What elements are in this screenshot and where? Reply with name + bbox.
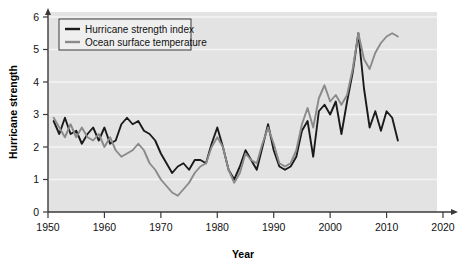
y-tick-label: 5 (33, 43, 39, 55)
line-chart: 0123456 19501960197019801990200020102020… (0, 0, 470, 269)
legend-label-ocean-surface-temperature: Ocean surface temperature (85, 37, 207, 48)
x-axis-title: Year (232, 248, 254, 260)
y-tick-label: 3 (33, 108, 39, 120)
y-tick-label: 4 (33, 76, 39, 88)
legend: Hurricane strength index Ocean surface t… (59, 19, 207, 50)
y-tick-label: 1 (33, 173, 39, 185)
x-tick-label: 2000 (318, 221, 342, 233)
chart-figure: 0123456 19501960197019801990200020102020… (0, 0, 470, 269)
y-tick-label: 0 (33, 206, 39, 218)
x-tick-label: 2010 (375, 221, 399, 233)
x-axis-ticks: 19501960197019801990200020102020 (36, 212, 455, 233)
legend-label-hurricane-strength-index: Hurricane strength index (85, 24, 194, 35)
y-axis-title: Hurricane strength (7, 65, 19, 159)
y-axis-ticks: 0123456 (33, 11, 48, 218)
x-tick-label: 1960 (93, 221, 117, 233)
y-tick-label: 6 (33, 11, 39, 23)
y-tick-label: 2 (33, 141, 39, 153)
x-tick-label: 2020 (431, 221, 455, 233)
x-tick-label: 1990 (262, 221, 286, 233)
x-tick-label: 1950 (36, 221, 60, 233)
x-tick-label: 1970 (149, 221, 173, 233)
x-tick-label: 1980 (206, 221, 230, 233)
